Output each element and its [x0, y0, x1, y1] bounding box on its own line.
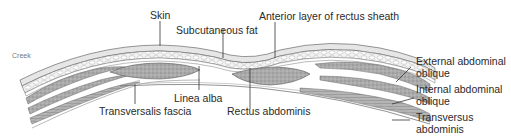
label-external-oblique-1: External abdominal	[416, 55, 506, 67]
label-anterior-rectus-sheath: Anterior layer of rectus sheath	[259, 10, 399, 22]
label-transversus-1: Transversus	[416, 111, 473, 123]
watermark-text: Creek	[12, 50, 31, 62]
label-subcutaneous-fat: Subcutaneous fat	[176, 24, 258, 36]
abdominal-wall-diagram: Creek Skin Subcutaneous fat Anterior lay…	[0, 0, 511, 140]
label-skin: Skin	[150, 9, 170, 21]
label-rectus-abdominis: Rectus abdominis	[227, 105, 310, 117]
label-external-oblique-2: oblique	[416, 67, 450, 79]
label-linea-alba: Linea alba	[174, 92, 222, 104]
label-internal-oblique-1: Internal abdominal	[416, 83, 502, 95]
label-transversalis-fascia: Transversalis fascia	[99, 105, 191, 117]
label-transversus-2: abdominis	[416, 123, 464, 135]
label-internal-oblique-2: oblique	[416, 95, 450, 107]
